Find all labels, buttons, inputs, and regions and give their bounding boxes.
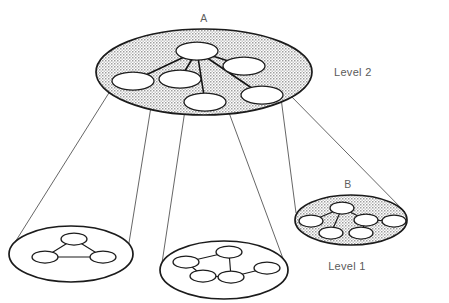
network-node[interactable] xyxy=(159,70,201,88)
cluster-a[interactable]: A xyxy=(96,12,312,115)
network-node[interactable] xyxy=(241,86,283,104)
network-node[interactable] xyxy=(299,215,323,227)
cluster-b[interactable]: B xyxy=(295,178,407,245)
diagram-canvas: A Level 2 xyxy=(0,0,449,303)
network-node[interactable] xyxy=(184,93,226,111)
network-node-hub[interactable] xyxy=(354,214,378,226)
network-node[interactable] xyxy=(173,256,199,268)
network-node[interactable] xyxy=(223,57,265,75)
network-node-hub[interactable] xyxy=(176,42,218,60)
network-node[interactable] xyxy=(216,246,242,258)
cone-line xyxy=(12,88,112,247)
cluster-b-label: B xyxy=(344,178,351,190)
cone-line xyxy=(288,93,405,212)
network-node-hub[interactable] xyxy=(330,202,354,214)
cluster-left[interactable] xyxy=(9,226,133,282)
cone-line xyxy=(128,88,154,249)
network-node[interactable] xyxy=(319,227,343,239)
level-1-label: Level 1 xyxy=(328,260,366,272)
network-node[interactable] xyxy=(112,72,154,90)
network-node[interactable] xyxy=(90,251,116,263)
cluster-middle[interactable] xyxy=(160,241,288,299)
cone-line xyxy=(162,110,185,263)
network-node[interactable] xyxy=(32,251,58,263)
network-node[interactable] xyxy=(61,233,87,245)
cluster-a-label: A xyxy=(200,12,207,24)
cone-line xyxy=(281,98,296,213)
network-node[interactable] xyxy=(349,227,373,239)
network-node[interactable] xyxy=(382,215,406,227)
network-node[interactable] xyxy=(254,262,280,274)
projection-cone-left xyxy=(12,88,154,249)
network-node[interactable] xyxy=(190,270,216,282)
network-node-hub[interactable] xyxy=(218,271,244,283)
network-levels-diagram: A Level 2 xyxy=(0,0,449,303)
level-2-label: Level 2 xyxy=(334,66,372,78)
